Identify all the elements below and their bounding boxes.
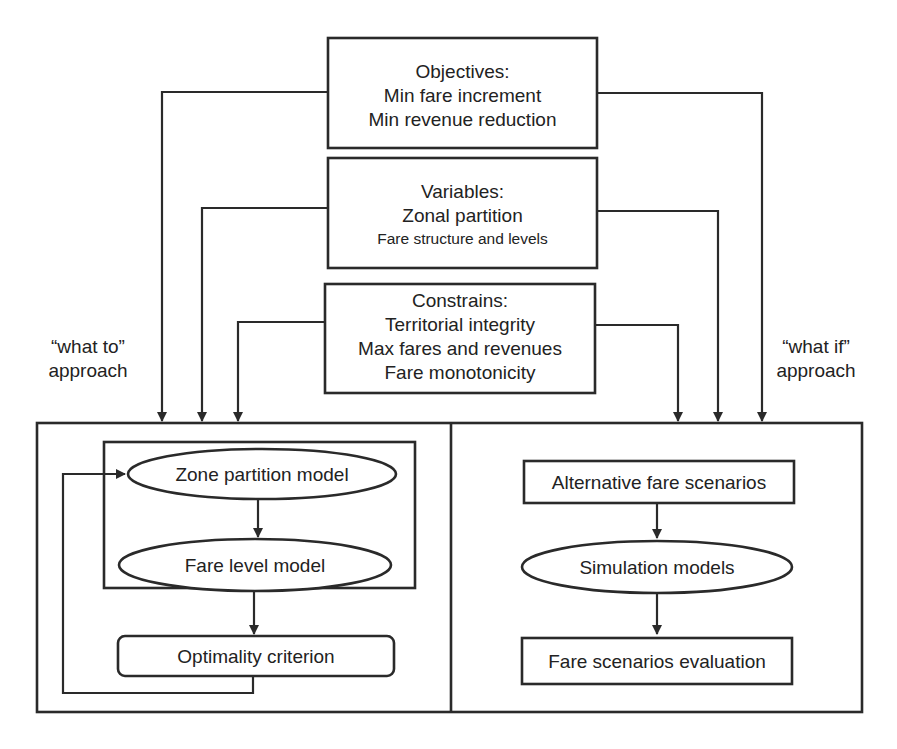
simulation-models-label: Simulation models xyxy=(579,557,734,578)
fare-design-diagram: Objectives: Min fare increment Min reven… xyxy=(0,0,897,749)
alternative-fare-scenarios-label: Alternative fare scenarios xyxy=(552,472,766,493)
objectives-line-2: Min revenue reduction xyxy=(369,109,557,130)
what-to-label-line-2: approach xyxy=(48,360,127,381)
left-panel: Zone partition model Fare level model Op… xyxy=(63,442,415,693)
variables-line-2: Fare structure and levels xyxy=(377,230,548,247)
variables-line-1: Zonal partition xyxy=(402,205,522,226)
zone-partition-model-label: Zone partition model xyxy=(175,464,348,485)
constrains-title: Constrains: xyxy=(412,290,508,311)
fare-scenarios-evaluation-label: Fare scenarios evaluation xyxy=(548,651,766,672)
connector-constrains-left xyxy=(238,322,325,421)
fare-scenarios-evaluation-node: Fare scenarios evaluation xyxy=(522,638,792,684)
fare-level-model-node: Fare level model xyxy=(119,539,391,591)
connector-constrains-right xyxy=(595,325,678,421)
constrains-line-1: Territorial integrity xyxy=(385,314,535,335)
what-to-label-line-1: “what to” xyxy=(51,336,125,357)
what-to-approach-label: “what to” approach xyxy=(48,336,127,381)
alternative-fare-scenarios-node: Alternative fare scenarios xyxy=(524,461,794,503)
fare-level-model-label: Fare level model xyxy=(185,555,325,576)
optimality-criterion-node: Optimality criterion xyxy=(118,636,394,676)
constrains-line-2: Max fares and revenues xyxy=(358,338,562,359)
variables-title: Variables: xyxy=(421,181,504,202)
variables-box: Variables: Zonal partition Fare structur… xyxy=(328,158,597,268)
simulation-models-node: Simulation models xyxy=(522,541,792,593)
right-panel: Alternative fare scenarios Simulation mo… xyxy=(522,461,794,684)
constrains-line-3: Fare monotonicity xyxy=(384,362,536,383)
what-if-approach-label: “what if” approach xyxy=(776,336,855,381)
connector-variables-left xyxy=(202,208,328,421)
what-if-label-line-2: approach xyxy=(776,360,855,381)
connector-variables-right xyxy=(597,211,718,421)
objectives-box: Objectives: Min fare increment Min reven… xyxy=(328,38,597,148)
objectives-title: Objectives: xyxy=(416,61,510,82)
zone-partition-model-node: Zone partition model xyxy=(128,449,396,499)
what-if-label-line-1: “what if” xyxy=(782,336,850,357)
constrains-box: Constrains: Territorial integrity Max fa… xyxy=(325,284,595,393)
optimality-criterion-label: Optimality criterion xyxy=(177,646,334,667)
connector-objectives-left xyxy=(162,92,328,421)
objectives-line-1: Min fare increment xyxy=(384,85,542,106)
connector-objectives-right xyxy=(597,93,762,421)
